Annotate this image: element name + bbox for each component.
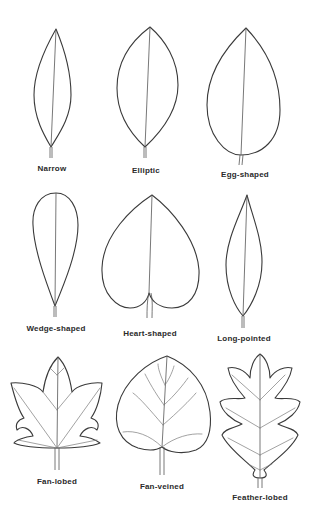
label-wedge-shaped: Wedge-shaped xyxy=(26,324,85,333)
leaf-egg-shaped: Egg-shaped xyxy=(207,28,280,179)
label-fan-lobed: Fan-lobed xyxy=(37,477,77,486)
label-long-pointed: Long-pointed xyxy=(217,334,271,343)
label-fan-veined: Fan-veined xyxy=(140,482,184,491)
leaf-wedge-shaped: Wedge-shaped xyxy=(26,193,85,333)
label-feather-lobed: Feather-lobed xyxy=(232,493,288,502)
label-egg-shaped: Egg-shaped xyxy=(221,170,269,179)
leaf-fan-lobed: Fan-lobed xyxy=(11,357,102,486)
leaf-feather-lobed: Feather-lobed xyxy=(220,354,300,502)
label-narrow: Narrow xyxy=(38,164,67,173)
leaf-long-pointed: Long-pointed xyxy=(217,195,271,343)
leaf-shapes-diagram: Narrow Elliptic Egg-shaped Wedge-shaped … xyxy=(0,0,316,521)
leaf-elliptic: Elliptic xyxy=(117,27,178,175)
label-elliptic: Elliptic xyxy=(132,166,160,175)
leaf-narrow: Narrow xyxy=(34,29,71,173)
label-heart-shaped: Heart-shaped xyxy=(123,329,177,338)
leaf-heart-shaped: Heart-shaped xyxy=(102,195,199,338)
leaf-fan-veined: Fan-veined xyxy=(116,356,210,491)
